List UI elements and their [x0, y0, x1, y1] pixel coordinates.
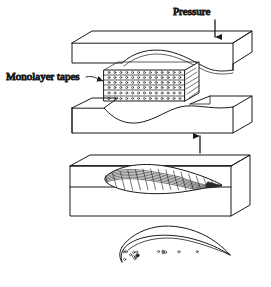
block3-top-face [70, 155, 250, 166]
monolayer-tape-stack [104, 62, 199, 101]
block3-right-face [231, 155, 250, 216]
upper-die-top-face [72, 31, 252, 43]
lower-die-block [72, 96, 252, 133]
upper-die-wavy-surface [122, 50, 233, 71]
pressure-label-top: Pressure [173, 5, 210, 17]
upper-die-right-face [233, 31, 252, 64]
upper-die-front-left [72, 43, 122, 63]
monolayer-tapes-leader-line [86, 76, 103, 81]
lower-die-wavy-surface [104, 106, 233, 123]
lower-die-right-ledge [190, 96, 252, 107]
monolayer-tapes-label: Monolayer tapes [6, 70, 80, 82]
consolidated-die-block [70, 155, 250, 216]
finished-part-fiber-dots [123, 250, 198, 261]
upper-die-block [72, 31, 252, 74]
composite-consolidation-diagram: Pressure [0, 0, 271, 287]
finished-part-upper-sheet [122, 226, 230, 255]
finished-part [120, 226, 231, 262]
lower-die-front-face [72, 107, 233, 133]
tape-stack-side-face [185, 62, 199, 101]
